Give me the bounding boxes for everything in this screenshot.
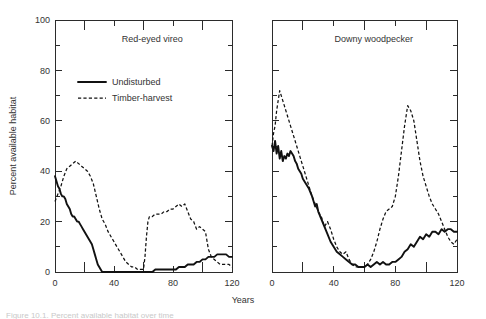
x-tick-label: 80 bbox=[390, 278, 400, 288]
panel-right: 04080120Downy woodpecker bbox=[269, 20, 464, 288]
legend-label-2: Timber-harvest bbox=[112, 93, 173, 103]
legend-label-1: Undisturbed bbox=[112, 77, 161, 87]
chart-svg: 02040608010004080120Red-eyed vireo040801… bbox=[0, 0, 486, 319]
x-tick-label: 80 bbox=[168, 278, 178, 288]
y-tick-label: 80 bbox=[40, 66, 50, 76]
x-tick-label: 40 bbox=[329, 278, 339, 288]
y-axis-title: Percent available habitat bbox=[8, 96, 18, 195]
figure-caption: Figure 10.1. Percent available habitat o… bbox=[6, 310, 476, 319]
series-dashed bbox=[55, 161, 232, 269]
x-tick-label: 0 bbox=[52, 278, 57, 288]
y-tick-label: 0 bbox=[45, 267, 50, 277]
series-solid bbox=[272, 141, 457, 267]
legend: UndisturbedTimber-harvest bbox=[78, 77, 173, 103]
x-tick-label: 40 bbox=[109, 278, 119, 288]
series-solid bbox=[55, 176, 232, 272]
panel-title: Red-eyed vireo bbox=[122, 34, 183, 44]
panel-left: 02040608010004080120Red-eyed vireo bbox=[35, 15, 240, 288]
panel-title: Downy woodpecker bbox=[334, 34, 413, 44]
x-axis-title: Years bbox=[232, 295, 255, 305]
x-tick-label: 0 bbox=[269, 278, 274, 288]
y-tick-label: 40 bbox=[40, 166, 50, 176]
y-tick-label: 100 bbox=[35, 15, 50, 25]
series-dashed bbox=[272, 91, 457, 267]
x-tick-label: 120 bbox=[224, 278, 239, 288]
x-tick-label: 120 bbox=[449, 278, 464, 288]
plot-frame bbox=[272, 20, 457, 272]
y-tick-label: 20 bbox=[40, 217, 50, 227]
y-tick-label: 60 bbox=[40, 116, 50, 126]
figure-container: 02040608010004080120Red-eyed vireo040801… bbox=[0, 0, 486, 319]
